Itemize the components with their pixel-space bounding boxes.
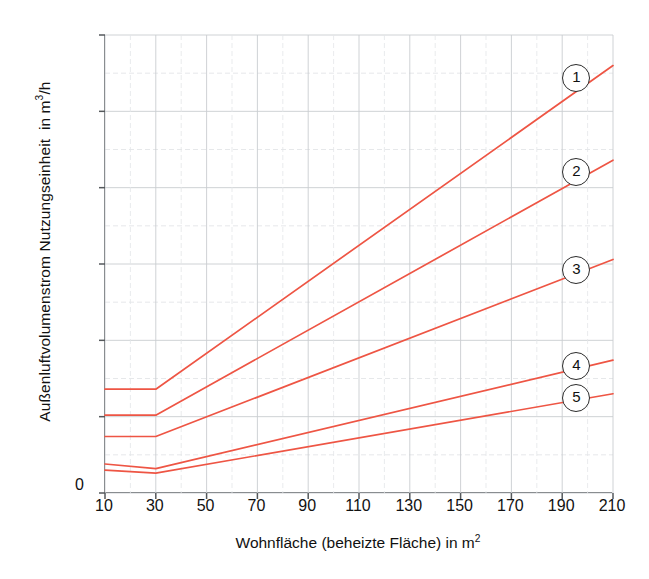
x-tick-label: 170 (497, 497, 524, 515)
y-axis-title: Außenluftvolumenstrom Nutzungseinheit in… (34, 12, 53, 492)
x-tick-label: 190 (548, 497, 575, 515)
series-marker-4: 4 (562, 352, 590, 380)
x-tick-label: 90 (298, 497, 316, 515)
plot-area (104, 35, 612, 493)
origin-tick-label: 0 (75, 476, 84, 494)
series-marker-3: 3 (562, 256, 590, 284)
series-marker-1: 1 (562, 64, 590, 92)
x-tick-label: 210 (599, 497, 626, 515)
x-axis-title: Wohnfläche (beheizte Fläche) in m2 (104, 533, 612, 552)
x-tick-label: 70 (247, 497, 265, 515)
chart-figure: Außenluftvolumenstrom Nutzungseinheit in… (0, 0, 649, 579)
x-tick-label: 10 (95, 497, 113, 515)
x-tick-label: 50 (197, 497, 215, 515)
x-tick-label: 150 (446, 497, 473, 515)
x-tick-label: 130 (395, 497, 422, 515)
x-tick-label: 110 (345, 497, 371, 515)
data-lines (105, 35, 612, 492)
series-marker-2: 2 (562, 158, 590, 186)
x-tick-label: 30 (146, 497, 164, 515)
series-marker-5: 5 (562, 384, 590, 412)
